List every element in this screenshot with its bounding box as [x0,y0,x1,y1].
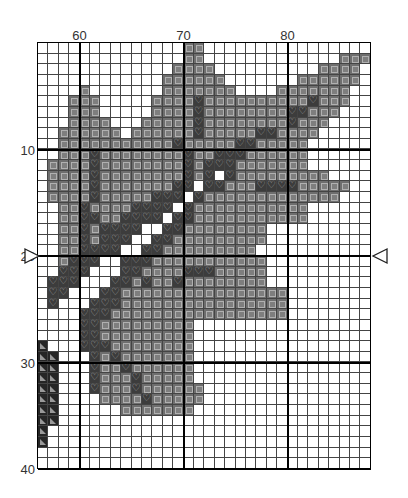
center-marker-right-icon [370,246,390,266]
major-gridline-horizontal [38,149,371,151]
column-label: 60 [72,28,86,43]
column-label: 70 [176,28,190,43]
column-label: 80 [280,28,294,43]
row-label: 40 [5,462,35,477]
major-gridline-horizontal [38,468,371,470]
row-label: 10 [5,142,35,157]
major-gridline-horizontal [38,362,371,364]
center-marker-left-icon [22,246,42,266]
row-label: 30 [5,355,35,370]
major-gridline-horizontal [38,255,371,257]
